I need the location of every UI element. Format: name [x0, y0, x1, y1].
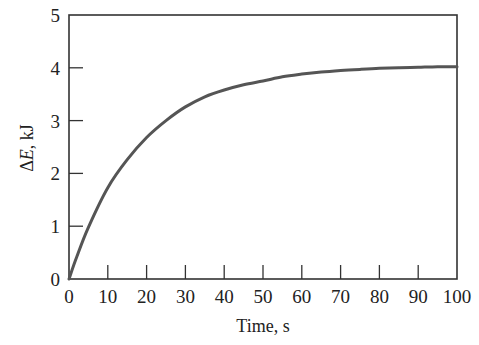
x-tick-label: 0 [64, 286, 74, 307]
x-tick-label: 30 [176, 286, 195, 307]
plot-frame [69, 15, 457, 279]
y-axis-ticks: 012345 [51, 5, 84, 290]
y-axis-label: ΔE, kJ [17, 124, 37, 172]
x-tick-label: 80 [370, 286, 389, 307]
x-tick-label: 60 [292, 286, 311, 307]
x-tick-label: 100 [443, 286, 472, 307]
x-axis-ticks: 0102030405060708090100 [64, 265, 471, 307]
x-tick-label: 40 [215, 286, 234, 307]
x-tick-label: 10 [98, 286, 117, 307]
plot-border [69, 15, 457, 279]
x-axis-label: Time, s [236, 316, 289, 336]
y-tick-label: 0 [51, 269, 61, 290]
x-tick-label: 70 [331, 286, 350, 307]
y-tick-label: 5 [51, 5, 61, 26]
chart: 0102030405060708090100 012345 Time, s ΔE… [0, 0, 479, 345]
y-tick-label: 4 [51, 58, 61, 79]
x-tick-label: 20 [137, 286, 156, 307]
y-tick-label: 1 [51, 216, 61, 237]
y-tick-label: 2 [51, 163, 61, 184]
y-tick-label: 3 [51, 111, 61, 132]
x-tick-label: 90 [409, 286, 428, 307]
data-curve [69, 67, 457, 279]
x-tick-label: 50 [254, 286, 273, 307]
